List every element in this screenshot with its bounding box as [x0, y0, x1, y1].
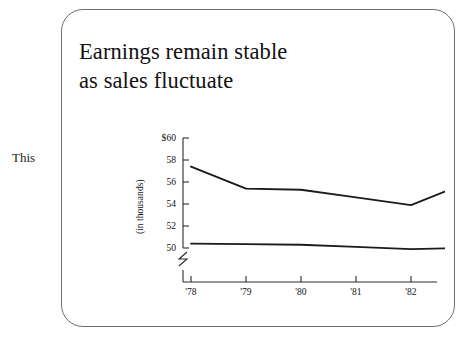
- margin-running-text: This: [12, 150, 35, 166]
- x-tick-label-81: '81: [350, 286, 362, 297]
- x-tick-label-82: '82: [405, 286, 417, 297]
- y-tick-label-56: 56: [166, 176, 176, 187]
- y-tick-label-58: 58: [166, 154, 176, 165]
- y-axis-break-icon: [179, 252, 187, 266]
- line-chart: (in thousands) $60 58 56 54 52 50: [135, 118, 445, 303]
- y-tick-label-60: $60: [162, 132, 177, 143]
- figure-title: Earnings remain stable as sales fluctuat…: [79, 37, 409, 95]
- x-tick-label-80: '80: [295, 286, 307, 297]
- x-tick-label-79: '79: [240, 286, 252, 297]
- y-tick-label-50: 50: [166, 242, 176, 253]
- y-axis-title: (in thousands): [135, 179, 146, 234]
- figure-title-line-1: Earnings remain stable: [79, 37, 409, 66]
- y-tick-label-52: 52: [166, 220, 176, 231]
- figure-card: Earnings remain stable as sales fluctuat…: [61, 9, 455, 327]
- series-line-earnings: [191, 244, 445, 250]
- y-tick-label-54: 54: [166, 198, 176, 209]
- figure-title-line-2: as sales fluctuate: [79, 66, 409, 95]
- series-line-sales: [191, 167, 445, 206]
- x-tick-label-78: '78: [185, 286, 197, 297]
- chart-svg: (in thousands) $60 58 56 54 52 50: [135, 118, 445, 303]
